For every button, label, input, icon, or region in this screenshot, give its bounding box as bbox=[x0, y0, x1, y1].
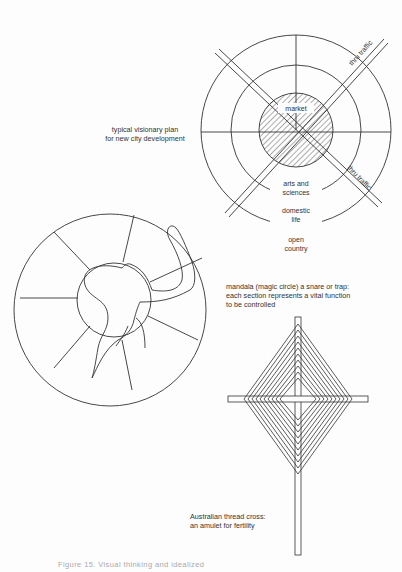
figure-footer-caption: Figure 15. Visual thinking and idealized bbox=[58, 560, 204, 569]
mandala-outer-circle bbox=[14, 214, 206, 406]
caption-line: to be controlled bbox=[226, 300, 402, 309]
document-page: market arts and sciences domestic life o… bbox=[0, 0, 402, 572]
mandala-inner-circle bbox=[77, 263, 151, 337]
caption-city-plan: typical visionary plan for new city deve… bbox=[70, 125, 220, 143]
emu-figure bbox=[84, 226, 195, 378]
caption-line: for new city development bbox=[70, 134, 220, 143]
label-open-2: country bbox=[285, 245, 308, 253]
label-open-1: open bbox=[288, 236, 304, 244]
caption-line: typical visionary plan bbox=[70, 125, 220, 134]
caption-line: an amulet for fertility bbox=[190, 521, 300, 530]
caption-line: mandala (magic circle) a snare or trap: bbox=[226, 282, 402, 291]
caption-line: each section represents a vital function bbox=[226, 291, 402, 300]
label-thru-traffic-se: thru traffic bbox=[346, 164, 373, 192]
label-arts-2: sciences bbox=[282, 189, 310, 196]
caption-line: Australian thread cross: bbox=[190, 512, 300, 521]
label-domestic-2: life bbox=[292, 216, 301, 223]
horizontal-stick bbox=[228, 396, 368, 402]
label-domestic-1: domestic bbox=[282, 207, 311, 214]
mandala-diagram bbox=[14, 214, 206, 406]
label-arts-1: arts and bbox=[283, 180, 308, 187]
caption-thread-cross: Australian thread cross: an amulet for f… bbox=[190, 512, 300, 530]
label-market: market bbox=[285, 105, 306, 112]
caption-mandala: mandala (magic circle) a snare or trap: … bbox=[226, 282, 402, 309]
city-plan-diagram bbox=[201, 35, 391, 228]
